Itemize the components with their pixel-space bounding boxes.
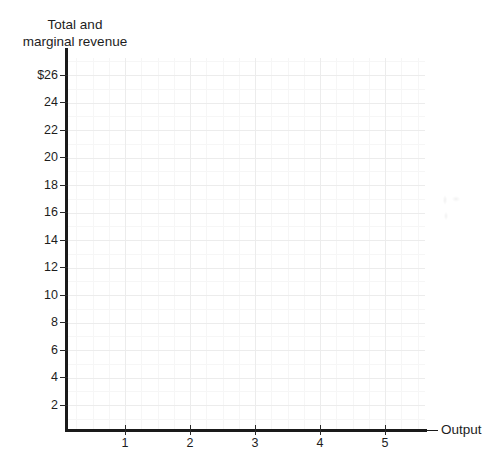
gridline-vertical xyxy=(320,58,321,430)
y-tick-label-wrap: 22 xyxy=(0,124,58,137)
gridline-horizontal xyxy=(67,213,425,214)
y-tick-mark xyxy=(60,185,68,186)
y-tick-label-wrap: 20 xyxy=(0,151,58,164)
y-tick-label: 2 xyxy=(0,399,58,412)
revenue-graph: Total and marginal revenue $262422201816… xyxy=(0,0,499,474)
x-axis-title: Output xyxy=(441,422,482,437)
x-tick-mark xyxy=(125,425,126,435)
y-tick-mark xyxy=(60,322,68,323)
y-axis-title: Total and marginal revenue xyxy=(0,16,150,50)
y-tick-label-wrap: 24 xyxy=(0,96,58,109)
y-tick-mark xyxy=(60,157,68,158)
y-tick-label: 4 xyxy=(0,371,58,384)
x-tick-label: 1 xyxy=(110,437,140,450)
y-tick-label-wrap: 10 xyxy=(0,289,58,302)
y-tick-label: 14 xyxy=(0,234,58,247)
gridline-horizontal xyxy=(67,350,425,351)
y-tick-label: 20 xyxy=(0,151,58,164)
y-tick-label-wrap: 18 xyxy=(0,179,58,192)
y-tick-mark xyxy=(60,102,68,103)
y-tick-label-wrap: 12 xyxy=(0,261,58,274)
x-tick-label: 3 xyxy=(240,437,270,450)
y-tick-mark xyxy=(60,75,68,76)
y-tick-label: 18 xyxy=(0,179,58,192)
gridline-horizontal xyxy=(67,130,425,131)
gridline-horizontal xyxy=(67,185,425,186)
x-tick-mark xyxy=(385,425,386,435)
y-tick-label-wrap: 14 xyxy=(0,234,58,247)
x-tick-mark xyxy=(320,425,321,435)
major-gridlines xyxy=(67,58,425,430)
scan-artifact xyxy=(437,190,463,220)
y-tick-label-wrap: 4 xyxy=(0,371,58,384)
x-tick-mark xyxy=(255,425,256,435)
gridline-horizontal xyxy=(67,268,425,269)
gridline-horizontal xyxy=(67,75,425,76)
y-tick-label: 24 xyxy=(0,96,58,109)
y-tick-label-wrap: 6 xyxy=(0,344,58,357)
y-tick-mark xyxy=(60,377,68,378)
gridline-horizontal xyxy=(67,295,425,296)
y-tick-mark xyxy=(60,240,68,241)
gridline-vertical xyxy=(190,58,191,430)
y-tick-mark xyxy=(60,130,68,131)
y-tick-mark xyxy=(60,405,68,406)
gridline-vertical xyxy=(385,58,386,430)
y-tick-mark xyxy=(60,295,68,296)
x-tick-label: 4 xyxy=(305,437,335,450)
y-tick-mark xyxy=(60,267,68,268)
x-axis-arrow xyxy=(425,430,438,432)
y-tick-label-wrap: 8 xyxy=(0,316,58,329)
y-tick-mark xyxy=(60,350,68,351)
y-tick-label: 12 xyxy=(0,261,58,274)
x-tick-label: 5 xyxy=(370,437,400,450)
plot-area xyxy=(67,58,425,430)
y-tick-label: 8 xyxy=(0,316,58,329)
y-tick-label-wrap: 16 xyxy=(0,206,58,219)
gridline-horizontal xyxy=(67,240,425,241)
gridline-horizontal xyxy=(67,103,425,104)
y-tick-mark xyxy=(60,212,68,213)
y-tick-label-wrap: 2 xyxy=(0,399,58,412)
x-tick-label: 2 xyxy=(175,437,205,450)
gridline-horizontal xyxy=(67,378,425,379)
y-tick-label-wrap: $26 xyxy=(0,69,58,82)
y-tick-label: 10 xyxy=(0,289,58,302)
gridline-horizontal xyxy=(67,405,425,406)
x-axis-line xyxy=(65,429,427,432)
gridline-horizontal xyxy=(67,323,425,324)
gridline-vertical xyxy=(255,58,256,430)
y-tick-label: 22 xyxy=(0,124,58,137)
y-tick-label: 16 xyxy=(0,206,58,219)
x-tick-mark xyxy=(190,425,191,435)
y-tick-label: $26 xyxy=(0,69,58,82)
gridline-horizontal xyxy=(67,158,425,159)
gridline-vertical xyxy=(125,58,126,430)
y-tick-label: 6 xyxy=(0,344,58,357)
